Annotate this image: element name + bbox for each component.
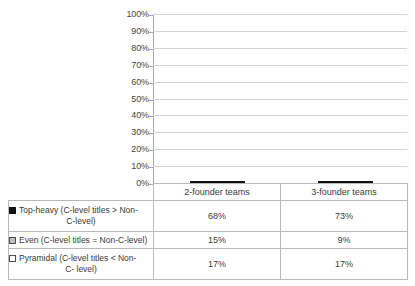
y-axis-tick-label: 10% [131,161,149,171]
y-axis-tick-label: 40% [131,110,149,120]
y-axis-tick-label: 60% [131,77,149,87]
legend-marker-gray-square-icon [9,237,16,244]
legend-label-line2: C-level) [9,216,153,227]
gridline [153,48,407,49]
legend-entry-pyramidal[interactable]: Pyramidal (C-level titles < Non- C- leve… [9,249,154,280]
y-axis-tick-label: 100% [126,9,149,19]
legend-marker-black-square-icon [9,207,16,214]
legend-label-line1: Even (C-level titles = Non-C-level) [19,235,147,245]
y-axis-tick-label: 20% [131,144,149,154]
table-row: Even (C-level titles = Non-C-level) 15% … [9,232,408,249]
y-axis-tick-label: 50% [131,94,149,104]
legend-label-line1: Pyramidal (C-level titles < Non- [19,253,136,263]
gridline [153,149,407,150]
gridline [153,14,407,15]
legend-label-line1: Top-heavy (C-level titles > Non- [19,205,138,215]
gridline [153,31,407,32]
table-row: Top-heavy (C-level titles > Non- C-level… [9,201,408,232]
table-cell-value: 15% [154,232,281,249]
gridline [153,115,407,116]
y-axis-tick-label: 70% [131,60,149,70]
y-axis-tick-label: 90% [131,26,149,36]
table-cell-value: 9% [281,232,408,249]
y-axis-labels: 100% 90% 80% 70% 60% 50% 40% 30% 20% 10%… [108,14,149,183]
category-label-2-founder: 2-founder teams [154,184,281,201]
table-row: Pyramidal (C-level titles < Non- C- leve… [9,249,408,280]
legend-marker-white-square-icon [9,255,16,262]
legend-label-line2: C- level) [9,264,153,275]
gridline [153,82,407,83]
y-axis-tick-label: 80% [131,43,149,53]
y-axis-tick-label: 30% [131,127,149,137]
plot-area [153,14,407,183]
table-header-row: 2-founder teams 3-founder teams [9,184,408,201]
table-cell-value: 68% [154,201,281,232]
gridline [153,166,407,167]
table-cell-value: 73% [281,201,408,232]
table-cell-value: 17% [281,249,408,280]
category-label-3-founder: 3-founder teams [281,184,408,201]
chart-figure: 100% 90% 80% 70% 60% 50% 40% 30% 20% 10%… [0,0,415,286]
gridline [153,99,407,100]
legend-entry-top-heavy[interactable]: Top-heavy (C-level titles > Non- C-level… [9,201,154,232]
data-table: 2-founder teams 3-founder teams Top-heav… [8,183,408,280]
gridline [153,65,407,66]
gridline [153,132,407,133]
legend-entry-even[interactable]: Even (C-level titles = Non-C-level) [9,232,154,249]
table-corner-cell [9,184,154,201]
table-cell-value: 17% [154,249,281,280]
